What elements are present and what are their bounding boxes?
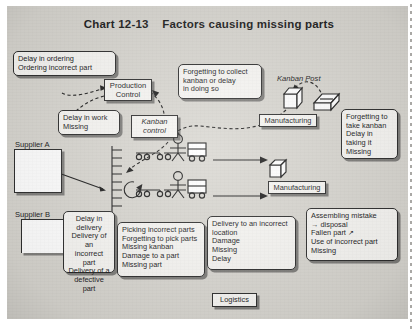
kanban-rack-icon: [112, 146, 122, 215]
arrowhead: [152, 90, 159, 97]
node-kanban-control: Kanban control: [131, 115, 178, 138]
parts-box-cube-icon-1: [284, 88, 302, 108]
scanned-diagram-page: Chart 12-13 Factors causing missing part…: [0, 0, 418, 333]
callout-collect-kanban: Forgetting to collect kanban or delay in…: [178, 64, 262, 99]
parts-box-cube-icon-2: [270, 160, 286, 177]
callout-assembling: Assembling mistake → disposal Fallen par…: [306, 208, 398, 261]
callout-delivery-location: Delivery to an incorrect location Damage…: [207, 216, 296, 270]
callout-delay-in-work: Delay in work Missing: [58, 110, 120, 135]
callout-take-kanban: Forgetting to take kanban Delay in takin…: [341, 109, 398, 159]
tow-train-icon-2: [136, 172, 206, 198]
diagram-line-art: [0, 0, 418, 333]
callout-delivery-supplier: Delay in delivery Delivery of an incorre…: [63, 211, 115, 273]
callout-picking: Picking incorrect parts Forgetting to pi…: [117, 222, 205, 277]
node-production-control: Production Control: [104, 79, 152, 101]
supplier-a-box: [14, 149, 62, 193]
arrowhead: [126, 167, 134, 173]
page-margin-top: [0, 0, 418, 6]
node-manufacturing-1: Manufacturing: [259, 114, 317, 127]
arrowhead: [99, 186, 106, 191]
node-manufacturing-2: Manufacturing: [268, 181, 326, 194]
supplier-b-label: Supplier B: [15, 210, 50, 219]
arrowhead: [260, 157, 268, 164]
arrowhead: [260, 193, 268, 200]
page-margin-bottom: [0, 319, 418, 333]
page-edge-dotted-rule: [410, 4, 412, 329]
kanban-card-holder-icon: [314, 94, 339, 110]
callout-ordering: Delay in ordering Ordering incorrect par…: [13, 51, 116, 76]
page-title: Chart 12-13 Factors causing missing part…: [0, 18, 418, 30]
node-logistics: Logistics: [212, 293, 257, 307]
page-margin-left: [0, 0, 7, 333]
kanban-post-label: Kanban Post: [277, 74, 321, 83]
supplier-a-label: Supplier A: [15, 140, 50, 149]
tow-train-icon-1: [136, 135, 206, 161]
dashed-arrow-to-production-control: [62, 88, 105, 95]
